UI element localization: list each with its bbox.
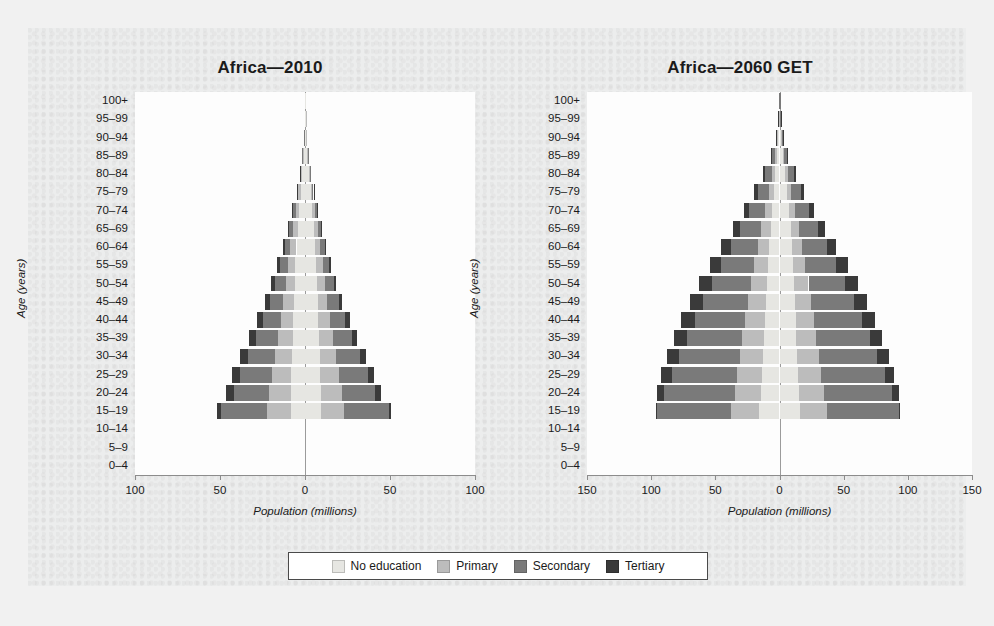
bar-segment [731,403,759,419]
bar-segment [809,203,814,219]
bar-segment [305,257,316,273]
bar-segment [780,385,799,401]
x-axis-tick-mark [844,475,845,480]
bar-segment [285,239,291,255]
bar-segment [318,312,330,328]
bar-segment [816,330,869,346]
bar-segment [740,221,761,237]
y-axis-tick-label: 30–34 [96,350,128,362]
legend-swatch [606,560,619,573]
bar-segment [305,203,312,219]
bar-segment [316,257,323,273]
bar-segment [721,239,730,255]
chart-africa-2060-get: Africa—2060 GET 2.22 billions Men Women … [460,0,994,540]
y-axis-tick-label: 5–9 [109,442,128,454]
bar-segment [827,403,899,419]
bar-segment [305,276,317,292]
bar-segment [791,221,799,237]
bar-segment [305,403,321,419]
x-axis-tick-label: 50 [690,484,740,496]
bar-segment [765,312,779,328]
bar-segment [799,221,819,237]
y-axis-tick-label: 55–59 [96,259,128,271]
bar-segment [321,403,344,419]
x-axis-tick-mark [587,475,588,480]
chart-africa-2010: Africa—2010 1.02 billion Men Women Age (… [0,0,497,540]
bar-segment [318,294,328,310]
y-axis-tick-label: 20–24 [548,387,580,399]
legend-item[interactable]: Secondary [514,559,590,573]
y-axis-tick-label: 100+ [554,95,580,107]
bar-segment [845,276,857,292]
bar-segment [321,221,322,237]
bar-segment [771,221,780,237]
y-axis-tick-label: 80–84 [96,168,128,180]
y-axis-tick-label: 70–74 [96,205,128,217]
bar-segment [293,330,305,346]
bar-segment [780,276,795,292]
bar-segment [321,385,342,401]
bar-segment [329,257,331,273]
bar-segment [795,294,811,310]
y-axis-tick-label: 85–89 [96,150,128,162]
bar-segment [794,166,796,182]
bar-segment [767,276,779,292]
bar-segment [769,184,774,200]
bar-segment [272,367,292,383]
bar-segment [792,239,802,255]
bar-segment [679,349,739,365]
bar-segment [667,349,679,365]
bar-segment [240,367,271,383]
bar-segment [768,257,779,273]
bar-segment [325,276,334,292]
y-axis-tick-label: 40–44 [96,314,128,326]
x-axis-tick-mark [715,475,716,480]
y-axis-ticks: 100+95–9990–9485–8980–8475–7970–7465–696… [60,92,128,475]
bar-segment [305,367,320,383]
bar-segment [295,276,305,292]
bar-segment [805,257,836,273]
bar-segment [763,349,779,365]
bar-segment [690,294,703,310]
bar-segment [797,349,819,365]
bar-segment [802,239,827,255]
bar-segment [780,349,798,365]
bar-segment [892,385,899,401]
bar-segment [796,330,816,346]
bar-segment [699,276,712,292]
bar-segment [288,257,296,273]
bar-segment [256,330,278,346]
y-axis-tick-label: 50–54 [548,278,580,290]
bar-segment [780,367,798,383]
bar-segment [793,257,805,273]
bar-segment [300,166,301,182]
y-axis-tick-label: 80–84 [548,168,580,180]
bar-segment [772,148,776,164]
bar-segment [780,203,789,219]
bar-segment [269,385,291,401]
legend-label: No education [351,559,422,573]
bar-segment [761,385,779,401]
bar-segment [765,166,772,182]
bar-segment [809,276,846,292]
legend: No educationPrimarySecondaryTertiary [288,552,708,580]
x-axis-tick-label: 150 [562,484,612,496]
bar-segment [740,349,763,365]
legend-item[interactable]: Primary [437,559,497,573]
y-axis-tick-label: 35–39 [96,332,128,344]
y-axis-tick-label: 10–14 [96,423,128,435]
y-axis-tick-label: 90–94 [96,132,128,144]
bar-segment [780,330,797,346]
bar-segment [345,312,349,328]
x-axis-tick-label: 50 [819,484,869,496]
y-axis-tick-label: 90–94 [548,132,580,144]
bar-segment [292,203,293,219]
plot-area [587,92,972,475]
bar-segment [275,276,286,292]
bar-segment [796,312,814,328]
x-axis-tick-label: 50 [365,484,415,496]
legend-item[interactable]: No education [332,559,422,573]
bar-segment [294,294,305,310]
legend-item[interactable]: Tertiary [606,559,664,573]
bar-segment [320,349,336,365]
